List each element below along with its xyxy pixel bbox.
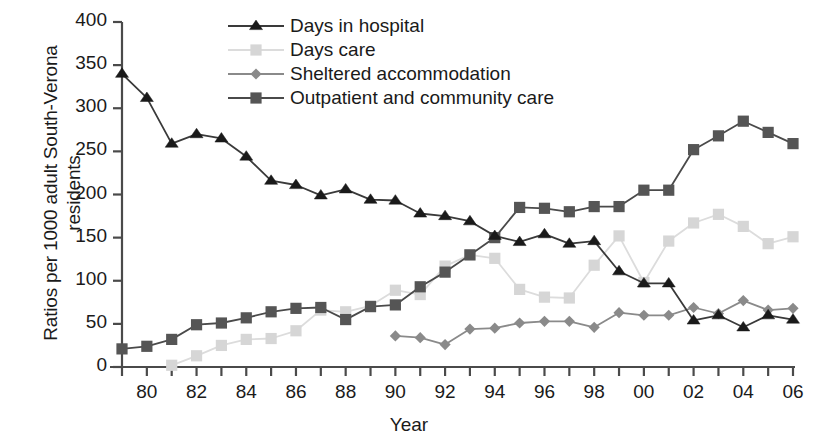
data-point-marker (613, 230, 624, 241)
data-point-marker (763, 238, 774, 249)
data-point-marker (290, 303, 301, 314)
legend-marker-square-icon (244, 86, 268, 110)
data-point-marker (514, 284, 525, 295)
y-tick-label: 0 (61, 354, 107, 376)
data-point-marker (638, 310, 649, 321)
data-point-marker (241, 334, 252, 345)
data-point-marker (713, 209, 724, 220)
data-point-marker (564, 292, 575, 303)
y-tick-label: 250 (61, 138, 107, 160)
data-point-marker (190, 128, 203, 138)
data-point-marker (638, 185, 649, 196)
y-tick-label: 50 (61, 311, 107, 333)
data-point-marker (116, 68, 129, 78)
data-point-marker (539, 316, 550, 327)
series-line (122, 121, 793, 349)
data-point-marker (266, 333, 277, 344)
data-point-marker (250, 68, 261, 79)
data-point-marker (589, 260, 600, 271)
x-tick-label: 90 (375, 381, 415, 403)
data-point-marker (738, 221, 749, 232)
y-tick-label: 400 (61, 9, 107, 31)
data-point-marker (390, 285, 401, 296)
data-point-marker (589, 201, 600, 212)
legend-label: Days in hospital (290, 15, 424, 37)
data-point-marker (688, 217, 699, 228)
legend-swatch-diamond-icon (228, 62, 284, 86)
data-point-marker (415, 281, 426, 292)
legend-label: Sheltered accommodation (290, 63, 511, 85)
data-point-marker (688, 302, 699, 313)
legend-label: Outpatient and community care (290, 87, 554, 109)
y-tick-label: 200 (61, 182, 107, 204)
data-point-marker (787, 138, 798, 149)
series-sheltered-accommodation (390, 295, 799, 350)
data-point-marker (613, 307, 624, 318)
legend-item[interactable]: Days in hospital (228, 14, 554, 38)
y-tick-label: 100 (61, 268, 107, 290)
data-point-marker (539, 292, 550, 303)
data-point-marker (266, 306, 277, 317)
data-point-marker (339, 183, 352, 193)
data-point-marker (713, 130, 724, 141)
series-line (172, 214, 793, 365)
data-point-marker (390, 299, 401, 310)
data-point-marker (216, 340, 227, 351)
data-point-marker (787, 303, 798, 314)
data-point-marker (240, 151, 253, 161)
legend-item[interactable]: Outpatient and community care (228, 86, 554, 110)
legend-item[interactable]: Days care (228, 38, 554, 62)
x-tick-label: 84 (226, 381, 266, 403)
data-point-marker (787, 231, 798, 242)
data-point-marker (250, 44, 261, 55)
x-tick-label: 86 (276, 381, 316, 403)
legend-swatch-square-icon (228, 86, 284, 110)
data-point-marker (763, 127, 774, 138)
series-days-care (166, 209, 798, 371)
data-point-marker (564, 316, 575, 327)
data-point-marker (737, 321, 750, 331)
data-point-marker (439, 267, 450, 278)
legend-marker-square-icon (244, 38, 268, 62)
data-point-marker (564, 206, 575, 217)
x-tick-label: 04 (723, 381, 763, 403)
data-point-marker (688, 144, 699, 155)
data-point-marker (389, 195, 402, 205)
data-point-marker (514, 202, 525, 213)
y-tick-label: 150 (61, 225, 107, 247)
legend-marker-diamond-icon (244, 62, 268, 86)
y-tick-label: 300 (61, 95, 107, 117)
x-tick-label: 02 (674, 381, 714, 403)
data-point-marker (514, 317, 525, 328)
data-point-marker (662, 277, 675, 287)
data-point-marker (250, 20, 263, 30)
x-tick-label: 80 (127, 381, 167, 403)
data-point-marker (241, 312, 252, 323)
series-line (122, 74, 793, 327)
legend-marker-triangle-icon (244, 14, 268, 38)
data-point-marker (340, 314, 351, 325)
x-tick-label: 06 (773, 381, 813, 403)
data-point-marker (365, 301, 376, 312)
data-point-marker (116, 343, 127, 354)
x-tick-label: 82 (177, 381, 217, 403)
data-point-marker (290, 325, 301, 336)
legend-item[interactable]: Sheltered accommodation (228, 62, 554, 86)
data-point-marker (588, 235, 601, 245)
data-point-marker (141, 341, 152, 352)
data-point-marker (538, 228, 551, 238)
data-point-marker (464, 249, 475, 260)
x-axis-title: Year (0, 414, 818, 436)
data-point-marker (663, 235, 674, 246)
data-point-marker (414, 208, 427, 218)
data-point-marker (166, 334, 177, 345)
chart-figure: Ratios per 1000 adult South-Verona resid… (0, 0, 818, 448)
data-point-marker (489, 253, 500, 264)
legend-swatch-square-icon (228, 38, 284, 62)
x-tick-label: 96 (524, 381, 564, 403)
legend-swatch-triangle-icon (228, 14, 284, 38)
data-point-marker (489, 323, 500, 334)
data-point-marker (589, 322, 600, 333)
legend-label: Days care (290, 39, 376, 61)
data-point-marker (663, 310, 674, 321)
